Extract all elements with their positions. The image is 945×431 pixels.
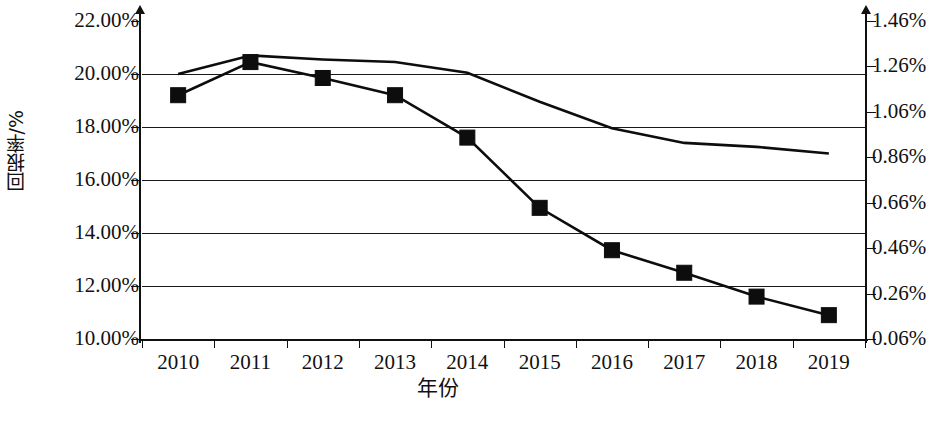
data-point-marker-square [604,243,619,258]
y-tick-label-right: 0.26% [872,283,926,304]
y-tick-label-right: 1.06% [872,101,926,122]
x-tick-label: 2010 [138,352,218,373]
data-point-marker-square [532,200,547,215]
y-tick-mark-right [867,157,876,158]
y-axis-right-line [865,13,867,343]
y-tick-mark-right [867,339,876,340]
y-tick-label-left: 22.00% [74,10,139,31]
y-tick-mark-right [867,203,876,204]
x-tick-label: 2011 [210,352,290,373]
x-tick-label: 2012 [283,352,363,373]
data-series-layer [142,21,865,339]
series-line-roe [178,62,829,315]
y-tick-mark-right [867,248,876,249]
y-tick-label-left: 14.00% [74,222,139,243]
y-axis-left-line [139,13,141,343]
y-tick-label-right: 1.26% [872,55,926,76]
chart-figure: 回报率/% 10.00%12.00%14.00%16.00%18.00%20.0… [0,0,945,431]
y-axis-right-arrow-icon [861,5,871,14]
y-tick-label-right: 0.86% [872,146,926,167]
x-tick-label: 2017 [644,352,724,373]
x-tick-label: 2019 [789,352,869,373]
y-tick-label-left: 20.00% [74,63,139,84]
y-tick-mark-right [867,66,876,67]
y-tick-mark-right [867,21,876,22]
y-tick-mark-right [867,294,876,295]
x-tick-label: 2014 [427,352,507,373]
y-tick-label-right: 0.46% [872,237,926,258]
x-axis-title: 年份 [0,371,945,401]
x-axis-line [139,339,868,341]
data-point-marker-square [460,130,475,145]
y-tick-label-right: 1.46% [872,10,926,31]
y-tick-label-left: 10.00% [74,328,139,349]
data-point-marker-square [749,289,764,304]
series-line-roa [178,55,829,153]
data-point-marker-square [821,308,836,323]
x-tick-label: 2013 [355,352,435,373]
y-tick-mark-right [867,112,876,113]
data-point-marker-square [171,88,186,103]
data-point-marker-square [677,265,692,280]
y-axis-title-left: 回报率/% [2,110,32,191]
x-tick-label: 2018 [717,352,797,373]
data-point-marker-square [315,70,330,85]
y-axis-left-arrow-icon [135,5,145,14]
x-tick-label: 2015 [500,352,580,373]
y-tick-label-left: 18.00% [74,116,139,137]
data-point-marker-square [388,88,403,103]
y-tick-label-left: 12.00% [74,275,139,296]
x-tick-label: 2016 [572,352,652,373]
y-tick-label-right: 0.66% [872,192,926,213]
y-tick-label-right: 0.06% [872,328,926,349]
data-point-marker-square [243,55,258,70]
plot-area [142,21,865,339]
y-tick-label-left: 16.00% [74,169,139,190]
